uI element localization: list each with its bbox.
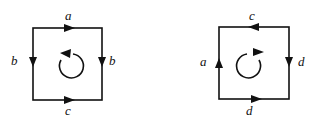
arrow-left-icon [248, 23, 259, 31]
left-square [33, 28, 102, 100]
label-right-right: d [298, 55, 305, 68]
label-right-top: c [249, 9, 255, 22]
arrow-up-icon [215, 58, 223, 68]
diagram-canvas [0, 0, 321, 121]
arrow-down-icon [98, 57, 106, 67]
arrow-right-icon [64, 24, 75, 32]
clockwise-icon [237, 48, 264, 78]
label-left-bottom: c [65, 104, 71, 117]
right-edge-arrows [215, 23, 293, 103]
counterclockwise-icon [59, 49, 83, 78]
arrow-right-icon [251, 95, 262, 103]
left-edge-arrows [29, 24, 106, 104]
label-left-left: b [11, 54, 18, 67]
label-left-top: a [65, 9, 72, 22]
arrow-down-icon [285, 57, 293, 67]
arrow-down-icon [29, 57, 37, 67]
right-square [219, 27, 289, 99]
label-right-bottom: d [246, 104, 253, 117]
label-right-left: a [200, 55, 207, 68]
label-left-right: b [109, 54, 116, 67]
